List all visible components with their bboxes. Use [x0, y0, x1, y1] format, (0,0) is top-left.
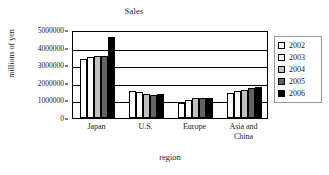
bar-group: [122, 32, 171, 118]
bar: [150, 95, 157, 118]
bar: [108, 37, 115, 118]
legend-item: 2006: [278, 87, 318, 99]
legend-swatch: [278, 66, 285, 73]
x-tick-label: U.S.: [121, 122, 170, 132]
bar: [80, 59, 87, 118]
bar: [255, 87, 262, 119]
legend-label: 2005: [289, 77, 305, 86]
y-tick-mark: [65, 48, 68, 49]
y-tick-label: 4000000: [38, 45, 64, 53]
y-tick-label: 5000000: [38, 27, 64, 35]
bar: [206, 98, 213, 118]
legend-label: 2003: [289, 53, 305, 62]
bar: [129, 91, 136, 118]
bar: [234, 91, 241, 118]
bar: [241, 90, 248, 118]
x-axis-tick-labels: JapanU.S.EuropeAsia and China: [72, 122, 268, 150]
legend-swatch: [278, 90, 285, 97]
bar: [136, 92, 143, 118]
legend-item: 2002: [278, 39, 318, 51]
legend-label: 2004: [289, 65, 305, 74]
legend-item: 2005: [278, 75, 318, 87]
bar-group: [73, 32, 122, 118]
legend-swatch: [278, 42, 285, 49]
legend-swatch: [278, 78, 285, 85]
plot-area: [72, 31, 268, 119]
bar: [143, 94, 150, 118]
legend-label: 2002: [289, 41, 305, 50]
bar: [199, 98, 206, 118]
y-tick-label: 2000000: [38, 80, 64, 88]
bars-layer: [73, 32, 267, 118]
bar-group: [220, 32, 269, 118]
y-tick-mark: [65, 101, 68, 102]
chart-legend: 20022003200420052006: [274, 36, 322, 103]
legend-item: 2003: [278, 51, 318, 63]
y-tick-mark: [65, 66, 68, 67]
x-tick-label: Europe: [170, 122, 219, 132]
legend-swatch: [278, 54, 285, 61]
y-tick-label: 3000000: [38, 62, 64, 70]
bar: [87, 57, 94, 118]
y-tick-label: 1000000: [38, 97, 64, 105]
bar: [248, 88, 255, 118]
bar: [101, 56, 108, 118]
x-tick-label: Asia and China: [219, 122, 268, 142]
bar: [94, 56, 101, 118]
bar-group: [171, 32, 220, 118]
y-axis-tick-labels: 010000002000000300000040000005000000: [20, 31, 68, 119]
y-tick-label: 0: [60, 115, 64, 123]
legend-item: 2004: [278, 63, 318, 75]
bar: [157, 94, 164, 118]
sales-bar-chart: Sales millions of yen 010000002000000300…: [0, 0, 329, 175]
bar: [192, 98, 199, 118]
bar: [227, 93, 234, 118]
bar: [178, 103, 185, 118]
y-tick-mark: [65, 119, 68, 120]
x-axis-title: region: [72, 152, 268, 162]
bar: [185, 100, 192, 118]
chart-title: Sales: [0, 6, 268, 16]
y-tick-mark: [65, 83, 68, 84]
x-tick-label: Japan: [72, 122, 121, 132]
y-axis-title: millions of yen: [7, 14, 16, 94]
legend-label: 2006: [289, 89, 305, 98]
y-tick-mark: [65, 31, 68, 32]
